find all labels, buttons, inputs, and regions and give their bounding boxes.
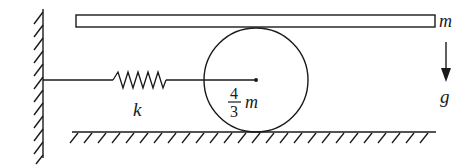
spring-constant-label: k [133, 99, 142, 120]
cylinder-mass-symbol: m [245, 92, 258, 112]
plank [76, 15, 435, 27]
gravity-arrow-icon [441, 42, 451, 82]
physics-diagram: m g k 4 3 m [0, 0, 476, 168]
gravity-label: g [440, 86, 450, 107]
wall [34, 9, 43, 164]
spring [43, 72, 256, 88]
cylinder-mass-numerator: 4 [230, 85, 238, 102]
cylinder-mass-label: 4 3 m [228, 85, 258, 120]
plank-mass-label: m [439, 11, 452, 31]
ground [70, 132, 436, 143]
cylinder-mass-denominator: 3 [230, 103, 238, 120]
